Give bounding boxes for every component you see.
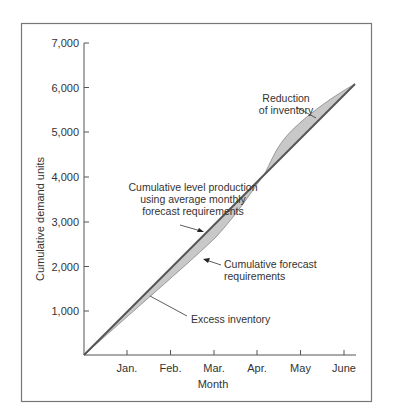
chart: 1,000 2,000 3,000 4,000 5,000 6,000 7,00… xyxy=(0,0,393,418)
annot-level-line1: Cumulative level production xyxy=(129,181,258,193)
annotation-excess-inventory: Excess inventory xyxy=(150,296,271,325)
y-tick-labels: 1,000 2,000 3,000 4,000 5,000 6,000 7,00… xyxy=(51,37,79,317)
annotation-forecast: Cumulative forecast requirements xyxy=(203,258,317,282)
y-tick-6000: 6,000 xyxy=(51,82,79,94)
x-ticks xyxy=(127,350,344,355)
x-tick-feb: Feb. xyxy=(159,362,181,374)
y-tick-3000: 3,000 xyxy=(51,216,79,228)
annotation-reduction-inventory: Reduction of inventory xyxy=(259,92,316,118)
arrow-icon xyxy=(197,228,204,232)
y-tick-2000: 2,000 xyxy=(51,261,79,273)
y-tick-1000: 1,000 xyxy=(51,305,79,317)
x-tick-apr: Apr. xyxy=(247,362,267,374)
annot-forecast-line1: Cumulative forecast xyxy=(224,258,317,270)
y-axis-title: Cumulative demand units xyxy=(34,156,46,281)
annot-level-line2: using average monthly xyxy=(140,193,246,205)
y-tick-7000: 7,000 xyxy=(51,37,79,49)
y-ticks xyxy=(84,43,89,311)
x-tick-jan: Jan. xyxy=(117,362,138,374)
x-tick-mar: Mar. xyxy=(203,362,224,374)
y-tick-4000: 4,000 xyxy=(51,171,79,183)
x-tick-labels: Jan. Feb. Mar. Apr. May June xyxy=(117,362,356,374)
annot-level-line3: forecast requirements xyxy=(142,205,244,217)
x-axis-title: Month xyxy=(198,378,229,390)
annotation-level-production: Cumulative level production using averag… xyxy=(129,181,258,232)
annot-reduction-line2: of inventory xyxy=(259,104,314,116)
x-tick-june: June xyxy=(332,362,356,374)
x-tick-may: May xyxy=(290,362,311,374)
annot-reduction-line1: Reduction xyxy=(262,92,309,104)
arrow-icon xyxy=(203,258,210,263)
annot-forecast-line2: requirements xyxy=(224,270,285,282)
annot-excess-text: Excess inventory xyxy=(191,313,271,325)
y-tick-5000: 5,000 xyxy=(51,126,79,138)
